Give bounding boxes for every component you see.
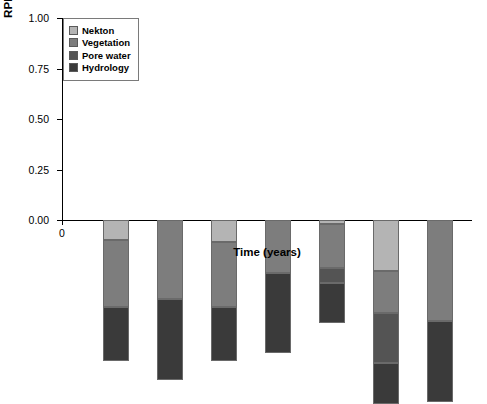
bar-segment-vegetation xyxy=(157,220,183,299)
bar-segment-nekton xyxy=(211,220,237,242)
bar-segment-hydrology xyxy=(265,273,291,354)
x-tick-label: 0 xyxy=(59,227,65,239)
legend-swatch-icon xyxy=(69,51,78,60)
y-tick: 1.00 xyxy=(57,18,62,19)
bar-segment-pore-water xyxy=(373,313,399,364)
y-tick-label: 0.50 xyxy=(29,113,49,125)
bar-1[interactable] xyxy=(103,79,129,220)
bar-7[interactable] xyxy=(427,38,453,220)
y-tick-label: 0.25 xyxy=(29,164,49,176)
bar-segment-hydrology xyxy=(103,307,129,362)
bar-segment-hydrology xyxy=(373,363,399,403)
legend-label: Hydrology xyxy=(82,62,129,73)
x-tick xyxy=(62,220,63,225)
legend-label: Nekton xyxy=(82,25,114,36)
y-tick: 0.75 xyxy=(57,69,62,70)
bar-segment-vegetation xyxy=(373,271,399,313)
bar-segment-vegetation xyxy=(427,220,453,321)
bar-4[interactable] xyxy=(265,87,291,220)
y-tick-label: 0.75 xyxy=(29,63,49,75)
legend-item-pore-water: Pore water xyxy=(69,50,131,61)
bar-segment-hydrology xyxy=(319,283,345,323)
chart-legend: NektonVegetationPore waterHydrology xyxy=(63,18,139,81)
bar-3[interactable] xyxy=(211,79,237,220)
legend-swatch-icon xyxy=(69,26,78,35)
x-axis-title: Time (years) xyxy=(62,246,472,258)
legend-swatch-icon xyxy=(69,63,78,72)
legend-item-nekton: Nekton xyxy=(69,25,131,36)
bar-segment-hydrology xyxy=(157,299,183,380)
legend-label: Pore water xyxy=(82,50,131,61)
bar-2[interactable] xyxy=(157,60,183,220)
bar-segment-nekton xyxy=(103,220,129,240)
y-tick: 0.25 xyxy=(57,170,62,171)
bar-6[interactable] xyxy=(373,36,399,220)
y-axis-title: RPI Score xyxy=(2,0,14,60)
bar-5[interactable] xyxy=(319,117,345,220)
y-tick-label: 0.00 xyxy=(29,214,49,226)
legend-swatch-icon xyxy=(69,38,78,47)
legend-item-vegetation: Vegetation xyxy=(69,37,131,48)
bar-segment-hydrology xyxy=(211,307,237,362)
legend-label: Vegetation xyxy=(82,37,130,48)
legend-item-hydrology: Hydrology xyxy=(69,62,131,73)
y-tick-label: 1.00 xyxy=(29,12,49,24)
bar-segment-hydrology xyxy=(427,321,453,402)
bar-segment-pore-water xyxy=(319,268,345,282)
bar-segment-nekton xyxy=(319,220,345,224)
y-tick: 0.50 xyxy=(57,119,62,120)
